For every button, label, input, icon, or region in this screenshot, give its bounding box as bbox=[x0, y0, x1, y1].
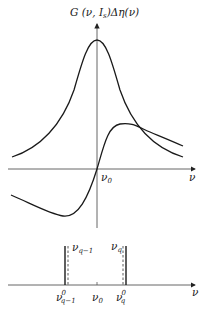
cavity-label-q: νq bbox=[111, 240, 122, 254]
gain-curve bbox=[12, 40, 183, 157]
x-axis-label-bottom: ν bbox=[192, 286, 199, 298]
center-label: ν0 bbox=[92, 291, 103, 305]
pulled-label-q-minus-1: ν0q−1 bbox=[56, 289, 76, 305]
pulled-label-q: ν0q bbox=[116, 289, 126, 305]
cavity-label-q-minus-1: νq−1 bbox=[72, 241, 93, 255]
origin-label: ν0 bbox=[101, 171, 112, 185]
top-panel: G (ν, Is)Δη(ν) ν0 ν bbox=[8, 6, 196, 228]
frequency-pulling-diagram: G (ν, Is)Δη(ν) ν0 ν νq−1 νq ν0q−1 ν0 ν0q bbox=[0, 0, 202, 310]
x-axis-label-top: ν bbox=[189, 171, 196, 183]
y-axis-label: G (ν, Is)Δη(ν) bbox=[70, 6, 139, 20]
bottom-panel: νq−1 νq ν0q−1 ν0 ν0q ν bbox=[8, 240, 199, 305]
